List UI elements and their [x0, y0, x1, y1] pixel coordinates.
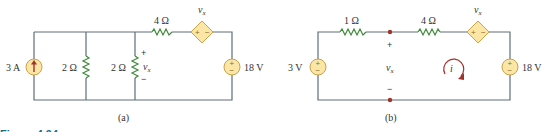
resistor-b1: 1 Ω [340, 15, 366, 35]
loop-current-label: i [450, 63, 453, 74]
terminal-node-bottom [388, 98, 392, 102]
circuit-b-wires [318, 32, 510, 100]
voltage-source-value: 3 V [288, 62, 303, 73]
clockwise-arrow-icon [444, 59, 464, 76]
voltage-source-3v: + − 3 V [288, 59, 326, 75]
vs-minus: − [316, 66, 321, 75]
vx-plus-sign: + [387, 40, 392, 50]
resistor-b1-value: 1 Ω [344, 15, 359, 26]
resistor-zigzag-icon [83, 56, 89, 78]
vs-minus: − [508, 66, 513, 75]
vx-minus-sign: − [141, 74, 146, 84]
dependent-source-a: + − vx [191, 4, 213, 43]
voltage-source-18v-a: + − 18 V [224, 59, 264, 75]
resistor-a1-value: 2 Ω [62, 62, 77, 73]
current-source-3a: 3 A [6, 59, 42, 75]
figure-caption: Figure 4.94 [0, 128, 59, 132]
resistor-b2: 4 Ω [418, 15, 440, 35]
vx-minus-sign: − [387, 84, 392, 94]
resistor-a2: 2 Ω + vx − [111, 48, 151, 84]
resistor-zigzag-icon [340, 29, 366, 35]
vx-label: vx [386, 62, 394, 75]
dep-minus: − [205, 28, 210, 37]
dependent-source-b: + − vx [467, 4, 489, 43]
resistor-a3-value: 4 Ω [154, 15, 169, 26]
circuit-a: 3 A 2 Ω 2 Ω + vx − 4 Ω + − vx [6, 4, 264, 124]
dep-plus: + [471, 28, 476, 37]
dep-label: vx [474, 4, 482, 17]
circuit-a-label: (a) [118, 112, 129, 124]
loop-current: i [444, 59, 464, 80]
circuit-b-label: (b) [385, 112, 397, 124]
figure-canvas: 3 A 2 Ω 2 Ω + vx − 4 Ω + − vx [0, 0, 547, 132]
vx-label: vx [143, 61, 151, 74]
resistor-b2-value: 4 Ω [421, 15, 436, 26]
resistor-a3: 4 Ω [152, 15, 172, 35]
voltage-source-value: 18 V [244, 62, 264, 73]
terminal-node-top [388, 30, 392, 34]
vs-minus: − [230, 66, 235, 75]
resistor-a2-value: 2 Ω [111, 62, 126, 73]
dep-plus: + [195, 28, 200, 37]
voltage-source-18v-b: + − 18 V [502, 59, 542, 75]
resistor-zigzag-icon [418, 29, 440, 35]
resistor-zigzag-icon [132, 56, 138, 78]
dep-minus: − [481, 28, 486, 37]
resistor-zigzag-icon [152, 29, 172, 35]
current-source-value: 3 A [6, 62, 21, 73]
arrowhead-icon [458, 73, 464, 80]
vx-plus-sign: + [141, 48, 146, 58]
voltage-source-value: 18 V [522, 62, 542, 73]
circuit-b: + − 3 V 1 Ω + vx − 4 Ω + − vx [288, 4, 542, 124]
resistor-a1: 2 Ω [62, 56, 89, 78]
dep-label: vx [198, 4, 206, 17]
